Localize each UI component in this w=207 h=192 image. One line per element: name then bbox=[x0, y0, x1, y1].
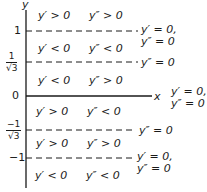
line-label-y-neg-1-b: y″ = 0 bbox=[137, 163, 171, 174]
line-label-y-neg-inv-sqrt3: y″ = 0 bbox=[139, 125, 173, 136]
tick-0: 0 bbox=[12, 90, 19, 101]
region-5-second-derivative: y″ > 0 bbox=[87, 138, 121, 149]
region-1-first-derivative: y′ > 0 bbox=[38, 10, 70, 21]
line-label-y-1-b: y″ = 0 bbox=[141, 36, 175, 47]
region-6-first-derivative: y′ < 0 bbox=[35, 170, 67, 181]
tick-neg-inv-sqrt3: −1 √3 bbox=[6, 120, 21, 141]
x-axis-label: x bbox=[154, 91, 161, 102]
line-label-y-inv-sqrt3: y″ = 0 bbox=[141, 57, 175, 68]
region-4-second-derivative: y″ < 0 bbox=[87, 106, 121, 117]
tick-denominator: √3 bbox=[6, 131, 21, 141]
region-2-second-derivative: y″ < 0 bbox=[89, 43, 123, 54]
tick-denominator: √3 bbox=[6, 63, 17, 73]
region-1-second-derivative: y″ > 0 bbox=[89, 10, 123, 21]
y-axis-label: y bbox=[22, 0, 29, 10]
region-3-first-derivative: y′ < 0 bbox=[38, 75, 70, 86]
region-6-second-derivative: y″ < 0 bbox=[86, 170, 120, 181]
region-4-first-derivative: y′ > 0 bbox=[36, 106, 68, 117]
region-5-first-derivative: y′ > 0 bbox=[36, 138, 68, 149]
tick-numerator: −1 bbox=[6, 120, 21, 131]
line-label-y-1-a: y′ = 0, bbox=[141, 24, 177, 35]
line-label-x-axis-a: y′ = 0, bbox=[171, 86, 207, 97]
line-label-x-axis-b: y″ = 0 bbox=[171, 98, 205, 109]
tick-1: 1 bbox=[14, 25, 21, 36]
line-label-y-neg-1-a: y′ = 0, bbox=[137, 151, 173, 162]
region-3-second-derivative: y″ > 0 bbox=[89, 75, 123, 86]
region-2-first-derivative: y′ < 0 bbox=[38, 43, 70, 54]
tick-inv-sqrt3: 1 √3 bbox=[6, 52, 17, 73]
tick-numerator: 1 bbox=[6, 52, 17, 63]
tick-neg-1: −1 bbox=[9, 152, 25, 163]
